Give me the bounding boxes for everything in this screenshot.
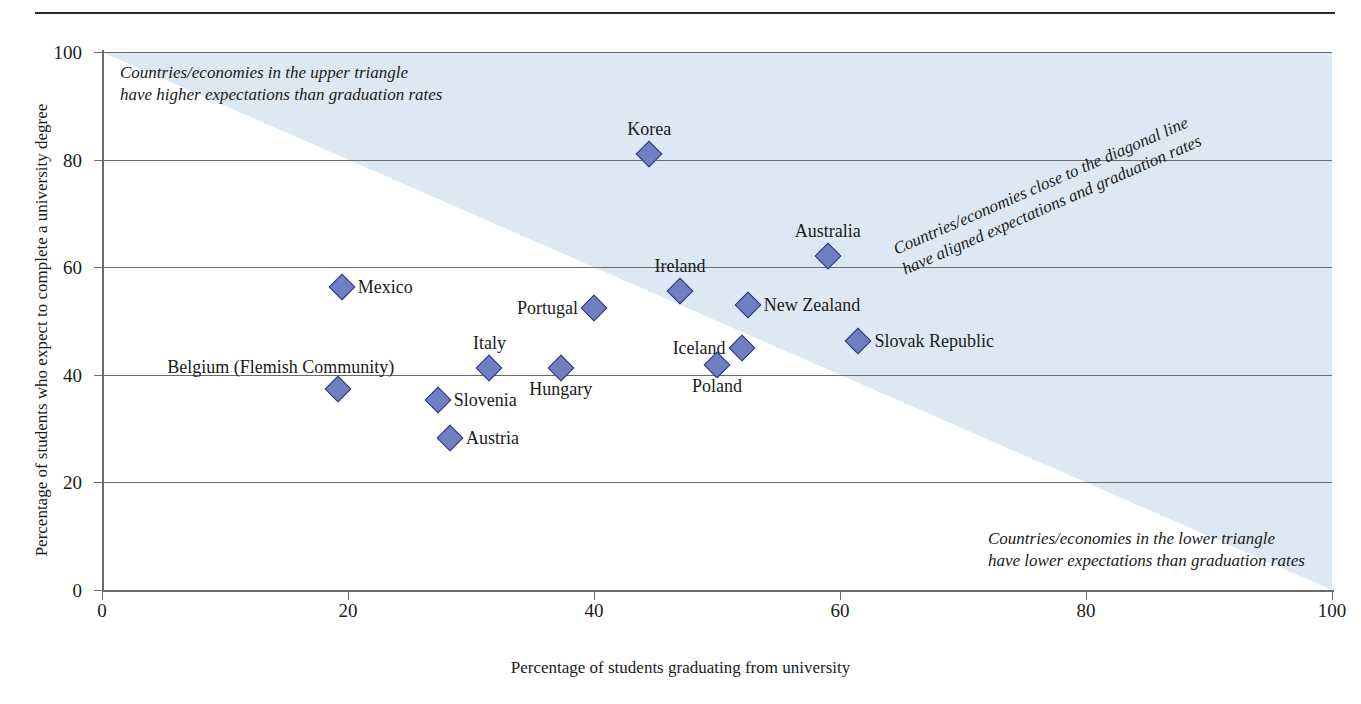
- y-tick-40: [94, 375, 103, 376]
- x-tick-80: [1086, 591, 1087, 600]
- upper-triangle-note: Countries/economies in the upper triangl…: [120, 62, 442, 106]
- x-tick-label-60: 60: [831, 601, 850, 620]
- y-tick-label-80: 80: [22, 151, 82, 170]
- gridline-y-100: [102, 52, 1332, 53]
- gridline-y-60: [102, 267, 1332, 268]
- data-point-label: Ireland: [655, 257, 706, 275]
- data-point-label: Austria: [466, 429, 519, 447]
- x-tick-20: [348, 591, 349, 600]
- y-tick-100: [94, 52, 103, 53]
- y-tick-label-40: 40: [22, 366, 82, 385]
- x-axis-line: [102, 590, 1334, 592]
- x-tick-label-40: 40: [585, 601, 604, 620]
- data-point-label: Mexico: [358, 278, 413, 296]
- data-point-label: Slovak Republic: [874, 332, 994, 350]
- data-point-label: New Zealand: [764, 296, 860, 314]
- x-tick-label-20: 20: [339, 601, 358, 620]
- data-point-label: Hungary: [529, 380, 592, 398]
- x-tick-60: [840, 591, 841, 600]
- header-rule: [35, 12, 1335, 14]
- data-point-label: Slovenia: [454, 391, 517, 409]
- x-tick-100: [1332, 591, 1333, 600]
- y-tick-20: [94, 482, 103, 483]
- y-axis-title: Percentage of students who expect to com…: [32, 20, 52, 640]
- y-tick-60: [94, 267, 103, 268]
- data-point-label: Australia: [795, 222, 861, 240]
- x-tick-40: [594, 591, 595, 600]
- x-tick-0: [102, 591, 103, 600]
- y-tick-label-60: 60: [22, 258, 82, 277]
- data-point-label: Poland: [692, 377, 742, 395]
- y-tick-label-20: 20: [22, 473, 82, 492]
- data-point-label: Korea: [627, 120, 671, 138]
- data-point-label: Portugal: [517, 299, 578, 317]
- y-tick-80: [94, 160, 103, 161]
- y-axis-line: [102, 50, 104, 592]
- chart-figure: KoreaAustraliaMexicoIrelandNew ZealandPo…: [0, 0, 1361, 704]
- x-tick-label-100: 100: [1318, 601, 1347, 620]
- y-tick-label-100: 100: [22, 43, 82, 62]
- data-point-label: Italy: [473, 334, 506, 352]
- x-tick-label-80: 80: [1077, 601, 1096, 620]
- lower-triangle-note: Countries/economies in the lower triangl…: [988, 528, 1305, 572]
- x-tick-label-0: 0: [97, 601, 107, 620]
- data-point-label: Belgium (Flemish Community): [167, 358, 394, 376]
- x-axis-title: Percentage of students graduating from u…: [0, 658, 1361, 678]
- y-tick-label-0: 0: [22, 581, 82, 600]
- gridline-y-20: [102, 482, 1332, 483]
